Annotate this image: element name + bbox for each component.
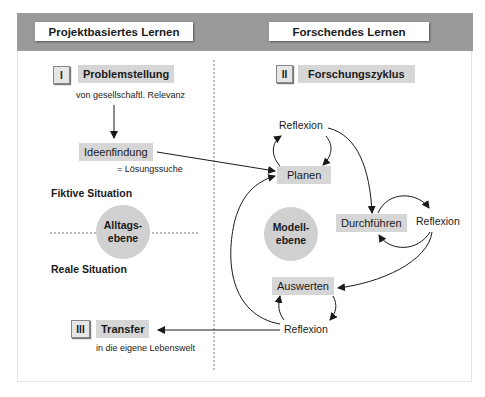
alltagsebene-circle: Alltags- ebene bbox=[96, 205, 150, 259]
forschungszyklus-label: Forschungszyklus bbox=[298, 65, 415, 83]
transfer-label: Transfer bbox=[96, 320, 149, 338]
reale-situation-label: Reale Situation bbox=[51, 263, 127, 275]
auswerten-label: Auswerten bbox=[272, 277, 334, 295]
durchfuehren-label: Durchführen bbox=[336, 214, 407, 232]
step-number-3: III bbox=[71, 320, 90, 338]
reflexion-right-label: Reflexion bbox=[416, 215, 460, 227]
problemstellung-label: Problemstellung bbox=[78, 65, 174, 83]
reflexion-top-label: Reflexion bbox=[279, 119, 323, 131]
problemstellung-subtitle: von gesellschaftl. Relevanz bbox=[76, 90, 185, 100]
ideenfindung-label: Ideenfindung bbox=[79, 143, 153, 161]
transfer-subtitle: in die eigene Lebenswelt bbox=[96, 343, 195, 353]
step-number-1: I bbox=[53, 66, 70, 84]
planen-label: Planen bbox=[277, 166, 331, 184]
reflexion-bottom-label: Reflexion bbox=[284, 323, 328, 335]
fiktive-situation-label: Fiktive Situation bbox=[51, 187, 132, 199]
modellebene-circle: Modell- ebene bbox=[264, 207, 318, 261]
step-number-2: II bbox=[276, 65, 293, 83]
ideenfindung-subtitle: = Lösungssuche bbox=[117, 164, 183, 174]
